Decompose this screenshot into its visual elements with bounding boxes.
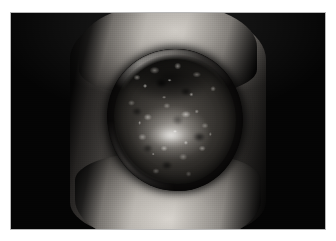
photograph-canvas <box>11 13 325 229</box>
photographic-grain-overlay <box>11 13 325 229</box>
figure-root <box>0 0 336 241</box>
clinical-photograph-frame <box>10 12 326 230</box>
